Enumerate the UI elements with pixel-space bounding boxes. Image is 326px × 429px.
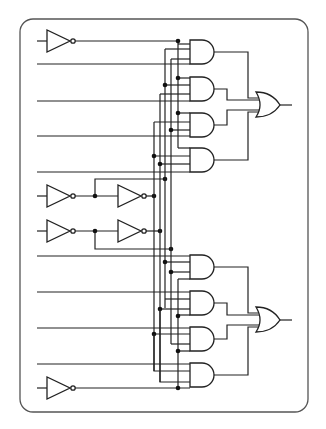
diagram-frame — [20, 19, 308, 412]
inverter-pair-2 — [37, 220, 173, 251]
lower-and-gates — [152, 255, 214, 390]
inverter-pair-1 — [37, 177, 167, 207]
inverter-bottom — [37, 279, 190, 399]
circuit-canvas — [0, 0, 326, 429]
circuit-diagram — [0, 0, 326, 429]
lower-or-gate — [214, 267, 292, 375]
upper-or-gate — [214, 52, 292, 160]
select-buses — [154, 41, 178, 382]
lower-data-inputs — [37, 256, 190, 364]
upper-and-gates — [152, 39, 214, 172]
inverter-top — [37, 30, 178, 52]
